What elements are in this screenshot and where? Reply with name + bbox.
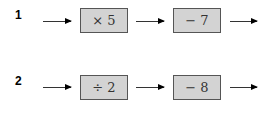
arrow-icon — [136, 21, 164, 22]
operation-box: − 8 — [173, 75, 221, 100]
operation-box: × 5 — [80, 8, 128, 33]
row-label: 1 — [15, 8, 22, 22]
row-label: 2 — [15, 74, 22, 88]
arrow-icon — [43, 87, 71, 88]
arrow-icon — [136, 87, 164, 88]
arrow-icon — [230, 87, 257, 88]
operation-box: ÷ 2 — [80, 75, 128, 100]
arrow-icon — [230, 21, 257, 22]
operation-box: − 7 — [173, 8, 221, 33]
arrow-icon — [43, 21, 71, 22]
